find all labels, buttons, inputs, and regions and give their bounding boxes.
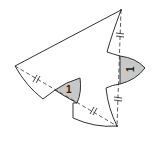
tick-marks-top bbox=[116, 33, 124, 37]
triangle-diagram: 1 1 bbox=[0, 0, 154, 142]
angle-label-left: 1 bbox=[66, 84, 72, 95]
tick-marks-left bbox=[33, 75, 40, 83]
dashed-line-left-bottom bbox=[15, 66, 117, 126]
vertex-bottom bbox=[116, 125, 118, 127]
vertex-top bbox=[120, 9, 122, 11]
geometry-figure: 1 1 bbox=[0, 0, 154, 142]
angle-label-right: 1 bbox=[125, 66, 136, 72]
triangle-outline bbox=[15, 10, 121, 126]
tick-marks-bottom-right bbox=[114, 97, 122, 101]
